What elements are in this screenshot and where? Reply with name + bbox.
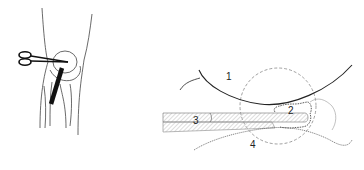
scissors-icon bbox=[19, 52, 68, 65]
condyle-curve bbox=[199, 65, 352, 105]
leg-outline-left bbox=[40, 8, 48, 128]
figure-canvas: 1 2 3 4 bbox=[0, 0, 364, 170]
lower-tissue-line bbox=[194, 128, 352, 151]
label-3: 3 bbox=[193, 115, 199, 126]
knee-illustration bbox=[40, 8, 92, 135]
label-2: 2 bbox=[288, 105, 294, 116]
leg-outline-right bbox=[78, 14, 92, 135]
label-4: 4 bbox=[250, 139, 256, 150]
instrument-sheath bbox=[163, 122, 275, 132]
closeup-illustration: 1 2 3 4 bbox=[163, 65, 352, 150]
instrument-shaft bbox=[163, 113, 308, 122]
label-1: 1 bbox=[226, 71, 232, 82]
